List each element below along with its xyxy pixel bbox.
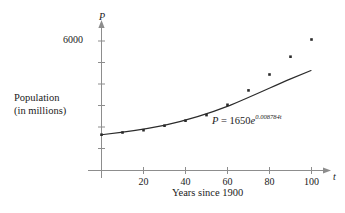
equation-coefficient: 1650: [230, 115, 251, 126]
y-axis-title-line2: (in millions): [14, 104, 66, 117]
x-tick-label-60: 60: [215, 177, 241, 187]
data-point: [289, 55, 292, 58]
x-tick-label-20: 20: [131, 177, 157, 187]
model-equation-annotation: P = 1650e0.008784t: [212, 114, 281, 126]
x-axis-arrowhead: [323, 167, 331, 173]
data-point: [163, 124, 166, 127]
data-point: [100, 133, 103, 136]
equation-exponent: 0.008784t: [255, 113, 281, 120]
x-axis-title: Years since 1900: [172, 188, 243, 199]
y-axis-title: Population (in millions): [14, 91, 66, 117]
x-tick-label-100: 100: [299, 177, 325, 187]
data-point: [205, 114, 208, 117]
x-axis-symbol: t: [333, 172, 336, 182]
data-point: [268, 73, 271, 76]
y-axis-symbol: P: [99, 12, 105, 22]
data-point: [121, 131, 124, 134]
data-point: [310, 38, 313, 41]
x-tick-label-40: 40: [173, 177, 199, 187]
x-tick-label-80: 80: [257, 177, 283, 187]
data-point: [142, 129, 145, 132]
y-axis-title-line1: Population: [14, 91, 66, 104]
data-point: [226, 104, 229, 107]
data-point: [184, 119, 187, 122]
data-point: [247, 89, 250, 92]
y-tick-label-6000: 6000: [63, 35, 83, 45]
chart-figure: P t 6000 20 40 60 80 100 Population (in …: [0, 0, 345, 213]
equation-equals: =: [218, 115, 229, 126]
